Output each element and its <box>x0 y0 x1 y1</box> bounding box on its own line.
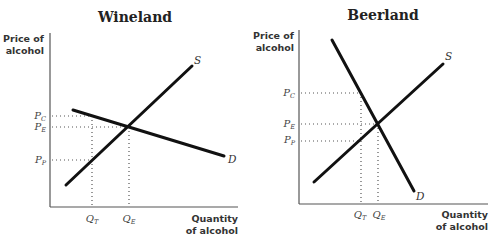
y-axis-label-line2: alcohol <box>256 42 294 53</box>
x-axis-label-line2: of alcohol <box>186 225 238 236</box>
x-axis-label-line1: Quantity <box>191 213 238 224</box>
supply-label: S <box>194 54 201 66</box>
tick-qt: QT <box>354 209 367 222</box>
tick-pe: PE <box>283 118 296 131</box>
demand-label: D <box>227 153 237 165</box>
demand-curve <box>332 40 414 191</box>
tick-qt: QT <box>86 213 99 226</box>
demand-label: D <box>415 190 425 202</box>
supply-demand-diagram: Wineland Price of alcohol S D PC PE PP Q… <box>0 0 504 250</box>
x-axis-label-line1: Quantity <box>441 209 488 220</box>
x-axis-label-line2: of alcohol <box>436 221 488 232</box>
beerland-panel: Beerland Price of alcohol S D PC PE PP Q… <box>253 7 489 232</box>
tick-pp: PP <box>34 154 47 167</box>
y-axis-label-line2: alcohol <box>6 45 44 56</box>
y-axis-label-line1: Price of <box>253 30 295 41</box>
supply-label: S <box>445 50 452 62</box>
demand-curve <box>73 110 224 156</box>
tick-qe: QE <box>373 209 386 222</box>
panel-title: Beerland <box>347 7 419 23</box>
tick-qe: QE <box>123 213 136 226</box>
y-axis-label-line1: Price of <box>3 33 45 44</box>
panel-title: Wineland <box>97 9 172 25</box>
wineland-panel: Wineland Price of alcohol S D PC PE PP Q… <box>3 9 239 236</box>
tick-pp: PP <box>283 134 296 147</box>
tick-pc: PC <box>282 87 295 100</box>
